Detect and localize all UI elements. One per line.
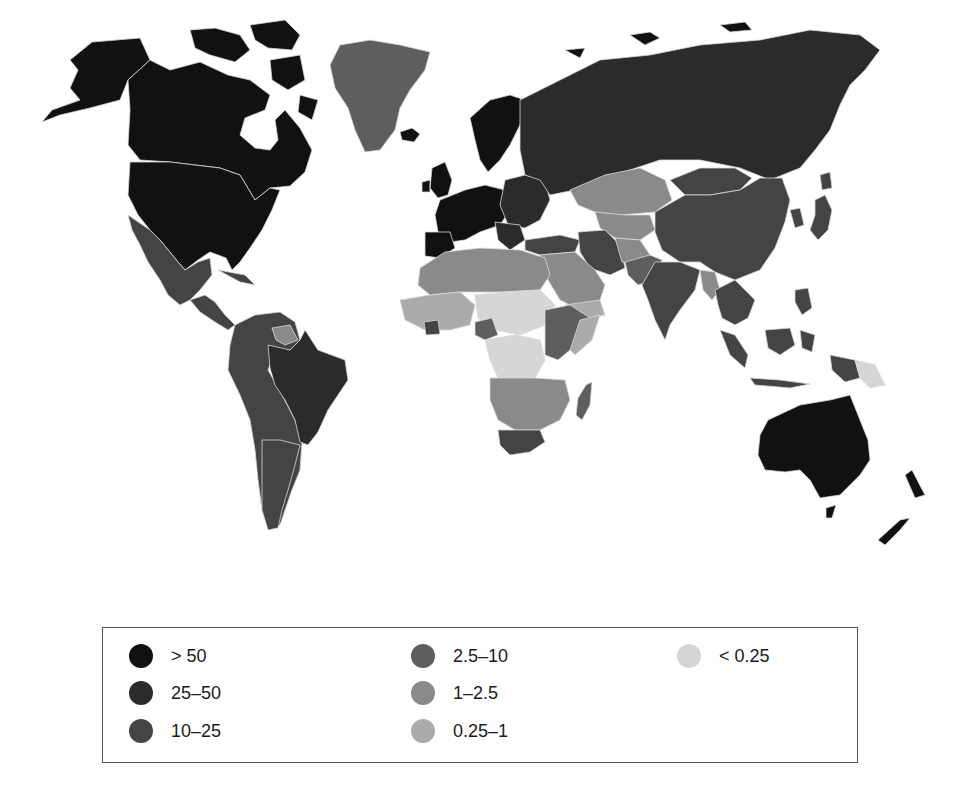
region-australia <box>758 395 870 498</box>
legend-label: > 50 <box>171 646 207 667</box>
legend-swatch <box>411 644 435 668</box>
region-india <box>642 262 700 340</box>
region-balkans <box>495 222 525 250</box>
legend-item: 0.25–1 <box>411 717 508 745</box>
legend-item: 1–2.5 <box>411 679 498 707</box>
legend-label: 1–2.5 <box>453 683 498 704</box>
legend-label: 2.5–10 <box>453 646 508 667</box>
region-central-america <box>190 295 235 330</box>
legend-item: 2.5–10 <box>411 642 508 670</box>
region-central-africa <box>485 335 545 385</box>
legend-label: < 0.25 <box>719 646 770 667</box>
region-southern-africa <box>490 378 570 430</box>
legend-item: < 0.25 <box>677 642 770 670</box>
legend-label: 10–25 <box>171 721 221 742</box>
region-new-zealand <box>878 470 925 545</box>
legend-item: > 50 <box>129 642 207 670</box>
region-madagascar <box>576 382 592 420</box>
legend-label: 25–50 <box>171 683 221 704</box>
legend-swatch <box>129 644 153 668</box>
region-caribbean <box>218 270 255 285</box>
legend-swatch <box>677 644 701 668</box>
region-papua-new-guinea <box>855 360 885 388</box>
legend-item: 25–50 <box>129 679 221 707</box>
region-tasmania <box>826 505 836 518</box>
legend-swatch <box>411 719 435 743</box>
region-south-africa <box>498 430 545 455</box>
legend-swatch <box>129 719 153 743</box>
region-korea <box>790 208 804 228</box>
region-southeast-asia <box>715 280 755 325</box>
region-uk-ireland <box>422 162 452 198</box>
legend: > 50 25–50 10–25 2.5–10 1–2.5 0.25–1 < 0… <box>102 627 858 763</box>
world-map <box>0 0 956 600</box>
legend-label: 0.25–1 <box>453 721 508 742</box>
region-malaysia-sumatra <box>720 330 748 368</box>
legend-swatch <box>129 681 153 705</box>
region-iceland <box>400 128 420 142</box>
region-scandinavia <box>470 95 525 172</box>
legend-swatch <box>411 681 435 705</box>
legend-item: 10–25 <box>129 717 221 745</box>
region-japan <box>810 172 832 240</box>
region-papua <box>830 355 860 382</box>
region-philippines <box>795 288 812 315</box>
region-indonesia <box>750 328 815 388</box>
region-cote-ivoire <box>424 320 440 335</box>
